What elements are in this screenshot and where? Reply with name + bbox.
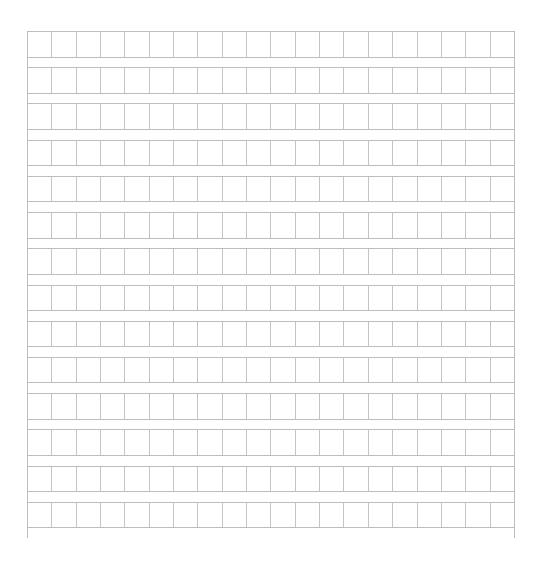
grid-cell	[125, 430, 149, 455]
grid-cell	[223, 394, 247, 419]
grid-cell	[491, 322, 514, 347]
grid-cell	[28, 503, 52, 528]
grid-cell	[150, 394, 174, 419]
grid-cell	[198, 430, 222, 455]
grid-cell	[125, 68, 149, 93]
grid-cell	[271, 104, 295, 129]
grid-cell	[344, 430, 368, 455]
grid-cell	[442, 249, 466, 274]
grid-cell	[247, 177, 271, 202]
grid-cell	[296, 322, 320, 347]
grid-cell	[344, 141, 368, 166]
grid-cell	[442, 68, 466, 93]
grid-cell	[223, 141, 247, 166]
grid-cell	[223, 503, 247, 528]
grid-cell	[52, 358, 76, 383]
grid-row	[28, 357, 514, 384]
grid-cell	[418, 141, 442, 166]
grid-cell	[247, 358, 271, 383]
grid-cell	[296, 104, 320, 129]
grid-cell	[77, 358, 101, 383]
grid-cell	[77, 322, 101, 347]
grid-cell	[77, 213, 101, 238]
grid-cell	[442, 286, 466, 311]
grid-cell	[296, 213, 320, 238]
grid-cell	[271, 286, 295, 311]
grid-cell	[491, 177, 514, 202]
grid-cell	[320, 249, 344, 274]
grid-cell	[271, 358, 295, 383]
grid-cell	[101, 68, 125, 93]
grid-cell	[491, 394, 514, 419]
grid-cell	[150, 177, 174, 202]
grid-cell	[150, 141, 174, 166]
grid-cell	[393, 467, 417, 492]
grid-cell	[296, 177, 320, 202]
grid-row	[28, 31, 514, 58]
grid-cell	[369, 68, 393, 93]
grid-cell	[344, 68, 368, 93]
grid-cell	[101, 503, 125, 528]
grid-cell	[150, 249, 174, 274]
grid-cell	[320, 141, 344, 166]
grid-cell	[296, 394, 320, 419]
grid-cell	[320, 104, 344, 129]
grid-cell	[466, 32, 490, 57]
grid-cell	[418, 322, 442, 347]
grid-cell	[174, 249, 198, 274]
grid-cell	[442, 358, 466, 383]
grid-cell	[369, 430, 393, 455]
grid-row	[28, 466, 514, 493]
grid-cell	[418, 503, 442, 528]
grid-cell	[198, 104, 222, 129]
grid-cell	[77, 430, 101, 455]
grid-cell	[344, 394, 368, 419]
grid-cell	[77, 141, 101, 166]
grid-cell	[247, 249, 271, 274]
grid-cell	[28, 177, 52, 202]
grid-cell	[344, 213, 368, 238]
grid-cell	[296, 249, 320, 274]
grid-row	[28, 502, 514, 529]
grid-cell	[101, 430, 125, 455]
grid-cell	[174, 467, 198, 492]
grid-cell	[418, 177, 442, 202]
grid-cell	[77, 177, 101, 202]
grid-cell	[442, 430, 466, 455]
grid-row	[28, 67, 514, 94]
grid-cell	[52, 467, 76, 492]
grid-cell	[369, 286, 393, 311]
grid-cell	[52, 141, 76, 166]
grid-cell	[247, 394, 271, 419]
grid-cell	[101, 286, 125, 311]
grid-cell	[223, 467, 247, 492]
grid-cell	[247, 286, 271, 311]
grid-row	[28, 140, 514, 167]
grid-cell	[28, 358, 52, 383]
grid-cell	[101, 104, 125, 129]
grid-cell	[442, 322, 466, 347]
grid-cell	[198, 286, 222, 311]
grid-cell	[491, 141, 514, 166]
grid-cell	[466, 394, 490, 419]
grid-cell	[466, 249, 490, 274]
grid-cell	[442, 104, 466, 129]
grid-cell	[466, 503, 490, 528]
grid-cell	[320, 358, 344, 383]
grid-cell	[418, 32, 442, 57]
grid-cell	[223, 68, 247, 93]
grid-cell	[125, 104, 149, 129]
grid-cell	[52, 249, 76, 274]
grid-cell	[150, 32, 174, 57]
grid-cell	[198, 503, 222, 528]
grid-cell	[442, 177, 466, 202]
grid-cell	[28, 213, 52, 238]
grid-cell	[198, 68, 222, 93]
grid-cell	[466, 286, 490, 311]
grid-cell	[296, 503, 320, 528]
grid-cell	[150, 467, 174, 492]
grid-cell	[491, 68, 514, 93]
grid-cell	[271, 467, 295, 492]
grid-cell	[125, 249, 149, 274]
grid-cell	[125, 286, 149, 311]
